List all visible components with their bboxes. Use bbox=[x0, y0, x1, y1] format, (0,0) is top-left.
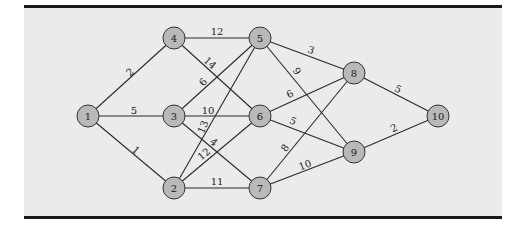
node-label: 7 bbox=[257, 183, 263, 194]
edge-weight-label: 2 bbox=[124, 66, 136, 79]
edge-weight-label: 9 bbox=[291, 65, 304, 77]
edge-9-10 bbox=[354, 116, 438, 152]
node-10: 10 bbox=[427, 105, 449, 127]
edge-weight-label: 1 bbox=[130, 144, 142, 157]
edge-weight-label: 12 bbox=[196, 146, 213, 163]
node-9: 9 bbox=[343, 141, 365, 163]
edge-weight-label: 13 bbox=[196, 119, 211, 135]
node-label: 2 bbox=[171, 183, 177, 194]
node-2: 2 bbox=[163, 177, 185, 199]
node-label: 8 bbox=[351, 68, 357, 79]
node-7: 7 bbox=[249, 177, 271, 199]
node-4: 4 bbox=[163, 27, 185, 49]
edge-6-8 bbox=[260, 73, 354, 116]
node-label: 6 bbox=[257, 111, 263, 122]
edge-7-8 bbox=[260, 73, 354, 188]
edge-weight-label: 12 bbox=[211, 26, 224, 37]
node-label: 9 bbox=[351, 147, 357, 158]
edge-weight-label: 14 bbox=[202, 55, 219, 72]
node-label: 5 bbox=[257, 33, 263, 44]
node-6: 6 bbox=[249, 105, 271, 127]
edge-weight-label: 11 bbox=[211, 176, 224, 187]
node-label: 4 bbox=[171, 33, 177, 44]
node-label: 1 bbox=[85, 111, 91, 122]
node-label: 10 bbox=[432, 111, 445, 122]
node-1: 1 bbox=[77, 105, 99, 127]
edge-weight-label: 6 bbox=[285, 88, 296, 101]
node-8: 8 bbox=[343, 62, 365, 84]
edge-weight-label: 2 bbox=[389, 122, 399, 135]
node-5: 5 bbox=[249, 27, 271, 49]
edge-weight-label: 5 bbox=[131, 105, 137, 116]
edge-weight-label: 10 bbox=[297, 158, 313, 173]
edge-weight-label: 10 bbox=[202, 105, 215, 116]
edge-weight-label: 5 bbox=[288, 115, 298, 128]
node-3: 3 bbox=[163, 105, 185, 127]
edge-6-9 bbox=[260, 116, 354, 152]
edge-8-10 bbox=[354, 73, 438, 116]
network-graph: 25112146104131211396581052 12345678910 bbox=[0, 0, 529, 229]
node-label: 3 bbox=[171, 111, 177, 122]
edge-weight-label: 3 bbox=[306, 44, 315, 56]
edge-2-5 bbox=[174, 38, 260, 188]
